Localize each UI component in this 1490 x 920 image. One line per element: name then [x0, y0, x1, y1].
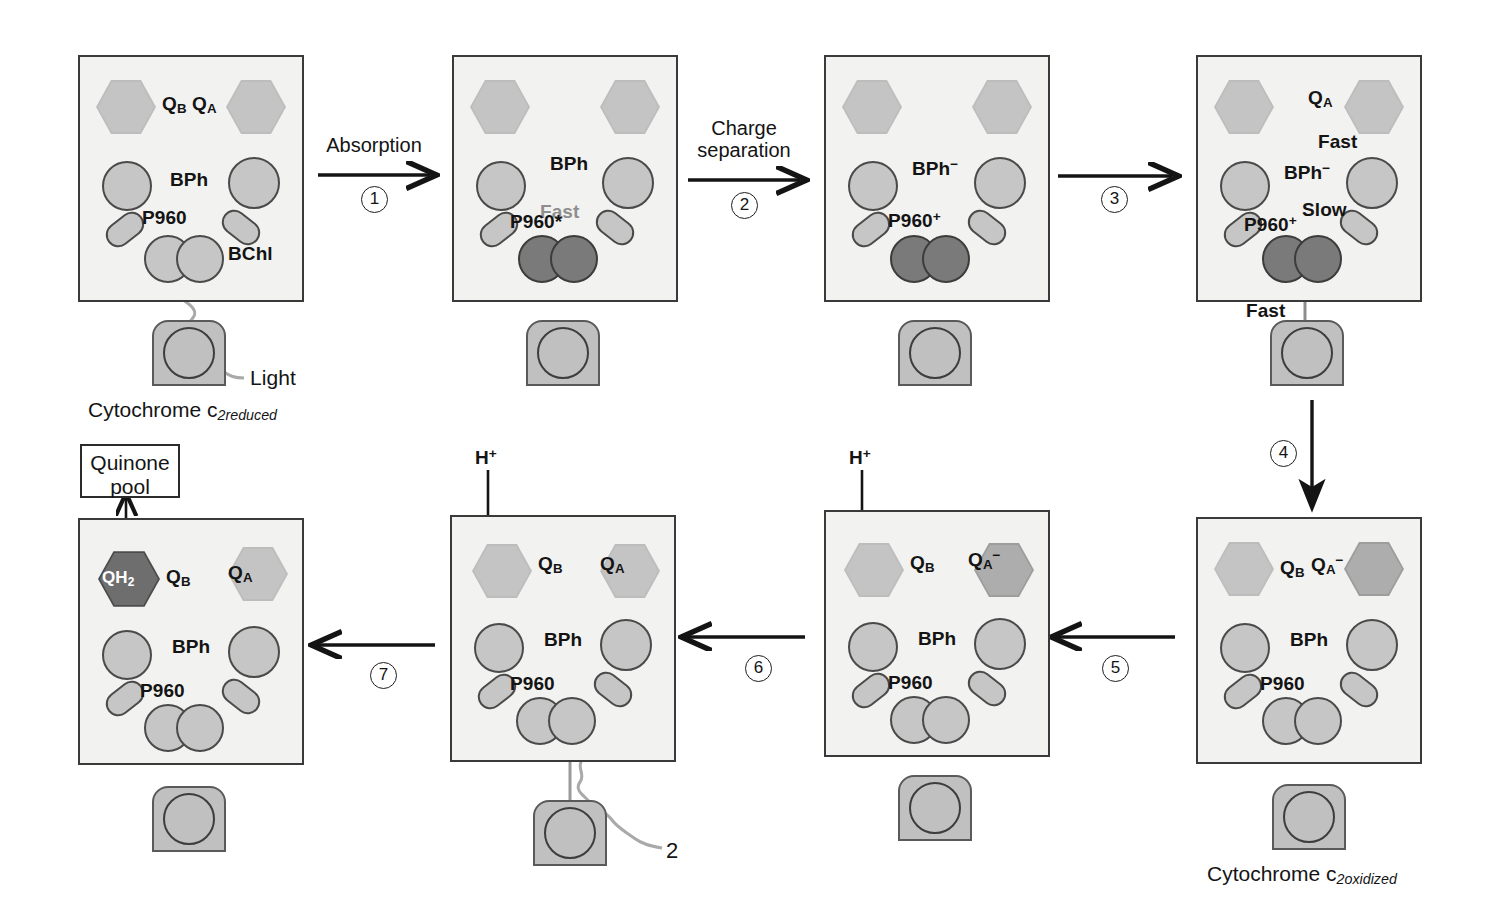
- bacteriochlorophyll-left-circle: [102, 161, 152, 211]
- reaction-center-panel-1: QB QA BPh P960 BChl: [78, 55, 304, 302]
- quinone-a-hexagon: [1344, 79, 1404, 135]
- label-qa: QA: [1308, 87, 1333, 110]
- step-2-label-line2: separation: [688, 140, 800, 161]
- heme-circle: [909, 327, 961, 379]
- bacteriochlorophyll-left-circle: [848, 622, 898, 672]
- p960-cation-right-circle: [1294, 235, 1342, 283]
- label-rate-fast-bottom-panel-4: Fast: [1246, 300, 1285, 322]
- bacteriochlorophyll-left-circle: [102, 630, 152, 680]
- bacteriochlorophyll-left-circle: [1220, 161, 1270, 211]
- label-qa-anion: QA−: [1311, 553, 1344, 577]
- p960-right-circle: [176, 235, 224, 283]
- label-bph: BPh: [172, 636, 210, 658]
- quinone-a-hexagon: [972, 79, 1032, 135]
- label-proton-panel-7: H+: [475, 446, 497, 469]
- quinone-a-anion-hexagon: [1344, 541, 1404, 597]
- quinone-pool-line1: Quinone: [82, 451, 178, 475]
- label-qa: QA: [600, 553, 625, 576]
- bacteriopheophytin-right-circle: [602, 157, 654, 209]
- bchl-right-pill: [1335, 667, 1383, 713]
- step-2-number: 2: [731, 192, 758, 219]
- label-qh2: QH2: [102, 568, 134, 589]
- label-p960: P960: [1260, 673, 1305, 695]
- step-5-number: 5: [1102, 655, 1129, 682]
- label-bph: BPh: [1290, 629, 1328, 651]
- label-qa: QA: [228, 562, 253, 585]
- label-qb: QB: [910, 552, 935, 575]
- cytochrome-c2-panel-7: [533, 800, 607, 866]
- quinone-b-hexagon: [842, 79, 902, 135]
- diagram-canvas: QB QA BPh P960 BChl Cytochrome c2reduced…: [0, 0, 1490, 920]
- label-bph: BPh: [550, 153, 588, 175]
- quinone-pool-line2: pool: [82, 475, 178, 499]
- quinone-b-hexagon: [472, 543, 532, 599]
- cytochrome-c2-panel-4: [1270, 320, 1344, 386]
- reaction-center-panel-8: QH2 QB QA BPh P960: [78, 518, 304, 765]
- quinone-b-hexagon: [844, 542, 904, 598]
- quinone-a-hexagon: [226, 79, 286, 135]
- bacteriopheophytin-right-circle: [228, 157, 280, 209]
- label-bph-anion: BPh−: [1284, 161, 1330, 184]
- label-qb: QB: [1280, 557, 1305, 580]
- bchl-right-pill: [217, 674, 265, 720]
- bacteriochlorophyll-left-circle: [848, 161, 898, 211]
- heme-circle: [544, 807, 596, 859]
- quinone-b-hexagon: [96, 79, 156, 135]
- label-p960: P960: [140, 680, 185, 702]
- p960-right-circle: [922, 696, 970, 744]
- reaction-center-panel-5: QB QA− BPh P960: [1196, 517, 1422, 764]
- bacteriopheophytin-right-circle: [1346, 619, 1398, 671]
- step-4-number: 4: [1270, 440, 1297, 467]
- label-bph: BPh: [170, 169, 208, 191]
- p960-excited-right-circle: [550, 235, 598, 283]
- heme-circle: [537, 327, 589, 379]
- label-rate-fast-top: Fast: [1318, 131, 1357, 153]
- quinone-b-hexagon: [1214, 79, 1274, 135]
- cytochrome-c2-panel-8: [152, 786, 226, 852]
- quinone-b-hexagon: [470, 79, 530, 135]
- bchl-right-pill: [963, 205, 1011, 251]
- step-7-number: 7: [370, 662, 397, 689]
- p960-right-circle: [548, 697, 596, 745]
- cytochrome-c2-panel-5: [1272, 784, 1346, 850]
- light-label-panel-1: Light: [250, 366, 296, 390]
- label-qa-anion: QA−: [968, 548, 1001, 572]
- bacteriopheophytin-right-circle: [228, 626, 280, 678]
- reaction-center-panel-7: QB QA BPh P960: [450, 515, 676, 762]
- cytochrome-c2-panel-1: [152, 320, 226, 386]
- bchl-right-pill: [591, 205, 639, 251]
- cytochrome-c2-panel-2: [526, 320, 600, 386]
- label-p960: P960: [142, 207, 187, 229]
- label-p960-cation: P960+: [888, 209, 941, 232]
- quinone-a-hexagon: [600, 79, 660, 135]
- heme-circle: [909, 782, 961, 834]
- heme-circle: [163, 793, 215, 845]
- reaction-center-panel-2: BPh Fast P960*: [452, 55, 678, 302]
- label-bph: BPh: [918, 628, 956, 650]
- label-qb: QB: [162, 93, 187, 116]
- label-qb: QB: [166, 566, 191, 589]
- cytochrome-c2-reduced-label: Cytochrome c2reduced: [88, 398, 277, 423]
- bacteriopheophytin-anion-circle: [1346, 157, 1398, 209]
- reaction-center-panel-6: QB QA− BPh P960: [824, 510, 1050, 757]
- bacteriochlorophyll-left-circle: [476, 161, 526, 211]
- label-p960: P960: [888, 672, 933, 694]
- label-rate-slow: Slow: [1302, 199, 1347, 221]
- label-proton-panel-6: H+: [849, 446, 871, 469]
- heme-circle: [1283, 791, 1335, 843]
- light-count-label-panel-7: 2: [666, 838, 678, 864]
- step-2-label-line1: Charge: [688, 118, 800, 139]
- heme-circle: [1281, 327, 1333, 379]
- p960-right-circle: [176, 704, 224, 752]
- label-p960-excited: P960*: [510, 211, 562, 233]
- heme-circle: [163, 327, 215, 379]
- bacteriopheophytin-anion-circle: [974, 157, 1026, 209]
- quinone-b-hexagon: [1214, 541, 1274, 597]
- label-p960-cation: P960+: [1244, 213, 1297, 236]
- reaction-center-panel-4: QA Fast BPh− Slow P960+: [1196, 55, 1422, 302]
- step-1-number: 1: [361, 186, 388, 213]
- cytochrome-c2-oxidized-label: Cytochrome c2oxidized: [1207, 862, 1397, 887]
- bchl-right-pill: [963, 666, 1011, 712]
- quinone-pool-box: Quinone pool: [80, 444, 180, 498]
- bacteriopheophytin-right-circle: [600, 619, 652, 671]
